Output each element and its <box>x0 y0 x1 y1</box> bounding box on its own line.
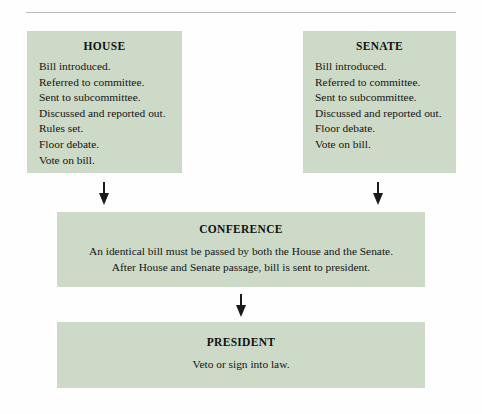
top-divider-rule <box>26 12 456 13</box>
conference-line: An identical bill must be passed by both… <box>57 243 425 259</box>
list-item: Sent to subcommittee. <box>39 90 182 106</box>
list-item: Floor debate. <box>315 121 456 137</box>
house-title: HOUSE <box>27 40 182 52</box>
list-item: Discussed and reported out. <box>39 106 182 122</box>
house-step-list: Bill introduced. Referred to committee. … <box>27 59 182 168</box>
senate-title: SENATE <box>303 40 456 52</box>
arrow-down-icon-house <box>97 182 111 205</box>
arrow-down-icon-senate <box>371 182 385 205</box>
president-box: PRESIDENT Veto or sign into law. <box>57 322 425 388</box>
conference-line: After House and Senate passage, bill is … <box>57 259 425 275</box>
list-item: Bill introduced. <box>315 59 456 75</box>
senate-step-list: Bill introduced. Referred to committee. … <box>303 59 456 153</box>
conference-box: CONFERENCE An identical bill must be pas… <box>57 212 425 287</box>
house-box: HOUSE Bill introduced. Referred to commi… <box>27 31 182 173</box>
list-item: Bill introduced. <box>39 59 182 75</box>
list-item: Discussed and reported out. <box>315 106 456 122</box>
conference-title: CONFERENCE <box>57 223 425 235</box>
list-item: Sent to subcommittee. <box>315 90 456 106</box>
list-item: Referred to committee. <box>39 75 182 91</box>
president-line: Veto or sign into law. <box>57 356 425 372</box>
list-item: Referred to committee. <box>315 75 456 91</box>
arrow-down-icon-conference <box>234 294 248 317</box>
list-item: Vote on bill. <box>39 153 182 169</box>
diagram-canvas: HOUSE Bill introduced. Referred to commi… <box>0 0 482 414</box>
list-item: Rules set. <box>39 121 182 137</box>
list-item: Floor debate. <box>39 137 182 153</box>
senate-box: SENATE Bill introduced. Referred to comm… <box>303 31 456 173</box>
list-item: Vote on bill. <box>315 137 456 153</box>
president-title: PRESIDENT <box>57 336 425 348</box>
